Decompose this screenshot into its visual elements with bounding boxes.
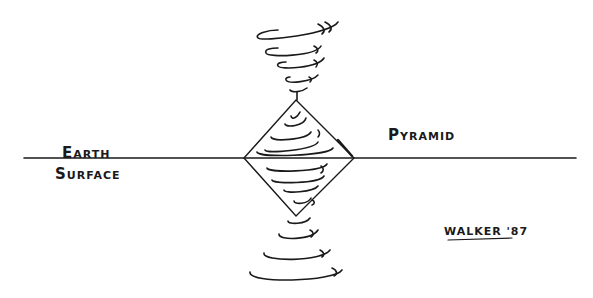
- surface-label: SURFACE: [55, 164, 121, 183]
- upper-vortex: [257, 22, 338, 100]
- pyramid-label: PYRAMID: [388, 125, 455, 144]
- inner-vortex-lower: [267, 164, 327, 205]
- lower-vortex: [250, 218, 342, 280]
- signature-underline: [448, 238, 512, 240]
- earth-label: EARTH: [62, 143, 110, 162]
- pyramid-edge-accent: [338, 140, 352, 156]
- inner-vortex-upper: [257, 112, 333, 155]
- signature-label: WALKER '87: [444, 225, 528, 238]
